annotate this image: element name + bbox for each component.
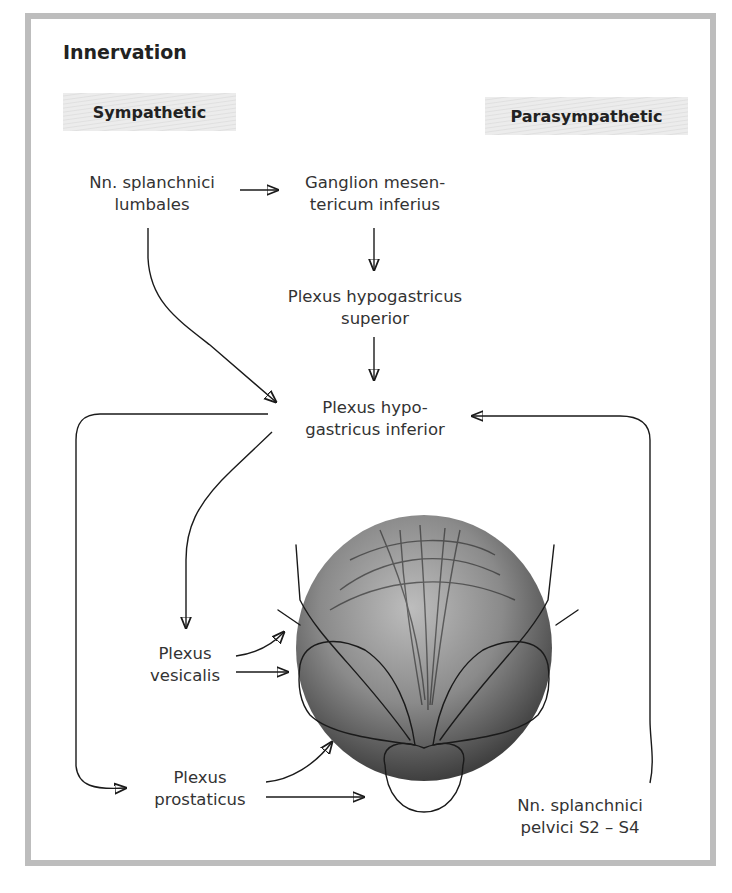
- bladder-illustration: [278, 515, 578, 812]
- illustration-and-arrows: [0, 0, 732, 893]
